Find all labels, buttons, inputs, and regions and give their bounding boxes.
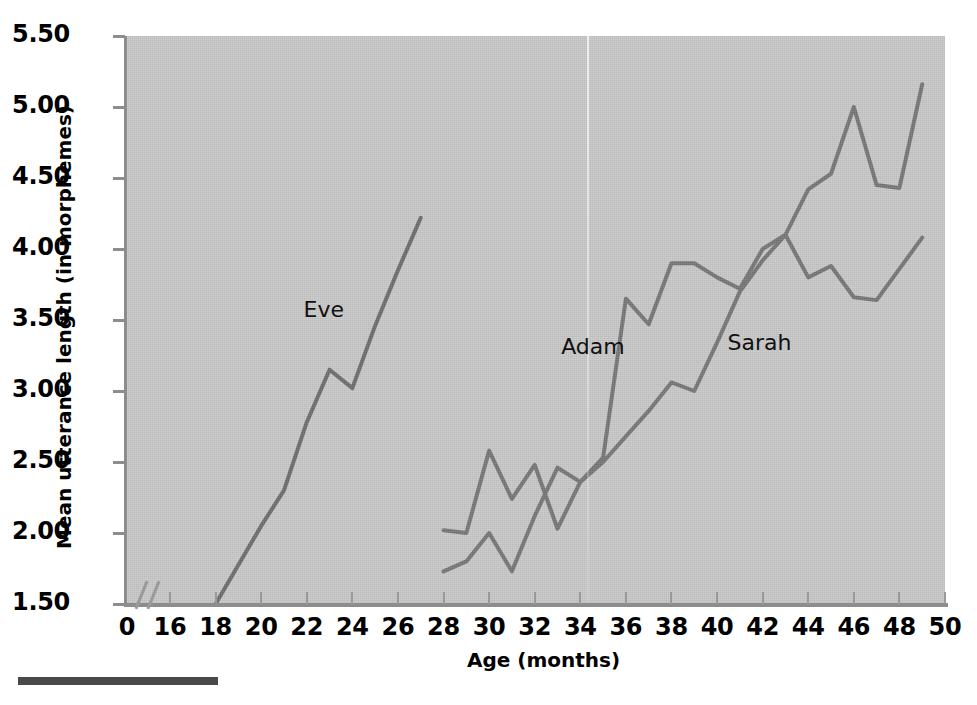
x-tick xyxy=(351,592,353,604)
series-line-eve xyxy=(216,218,421,604)
series-label-eve: Eve xyxy=(304,297,344,322)
series-lines xyxy=(127,36,945,604)
x-tick xyxy=(944,592,946,604)
footer-rule xyxy=(18,677,218,685)
x-tick xyxy=(762,592,764,604)
x-tick xyxy=(853,592,855,604)
x-tick xyxy=(625,592,627,604)
x-tick xyxy=(306,592,308,604)
y-tick xyxy=(113,248,125,251)
axis-break-marker xyxy=(134,580,174,612)
y-tick-label: 1.50 xyxy=(0,588,70,616)
y-tick xyxy=(113,177,125,180)
x-tick xyxy=(898,592,900,604)
series-line-sarah xyxy=(444,235,923,572)
x-tick xyxy=(534,592,536,604)
chart-figure: EveAdamSarah 5.505.004.504.003.503.002.5… xyxy=(0,0,977,705)
y-tick xyxy=(113,603,125,606)
x-tick xyxy=(260,592,262,604)
y-tick xyxy=(113,319,125,322)
y-tick xyxy=(113,532,125,535)
series-line-adam xyxy=(444,84,923,533)
plot-area: EveAdamSarah xyxy=(127,36,945,604)
axis-break-slash-2 xyxy=(146,581,160,610)
series-label-sarah: Sarah xyxy=(728,330,792,355)
y-axis-title: Mean utterance length (in morphemes) xyxy=(52,87,76,567)
x-tick xyxy=(579,592,581,604)
y-tick xyxy=(113,461,125,464)
x-tick-label: 50 xyxy=(915,613,975,641)
y-tick xyxy=(113,106,125,109)
y-tick-label: 5.50 xyxy=(0,20,70,48)
y-tick xyxy=(113,390,125,393)
y-tick xyxy=(113,35,125,38)
x-tick xyxy=(488,592,490,604)
x-axis-title: Age (months) xyxy=(0,648,977,672)
x-tick xyxy=(397,592,399,604)
series-label-adam: Adam xyxy=(561,334,625,359)
x-tick xyxy=(670,592,672,604)
x-tick xyxy=(443,592,445,604)
x-tick xyxy=(807,592,809,604)
x-tick xyxy=(716,592,718,604)
x-axis-line xyxy=(124,603,948,607)
x-tick xyxy=(215,592,217,604)
